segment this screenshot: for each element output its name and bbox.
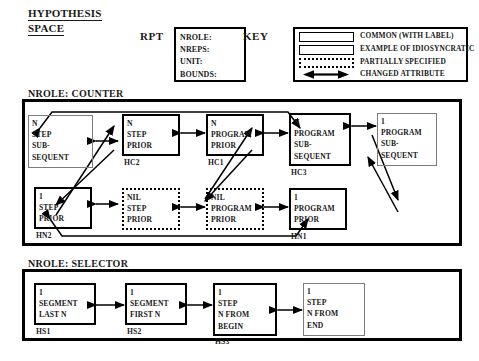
node-label-hc1: HC1 [208,158,224,167]
key-entry-common: COMMON (WITH LABEL) [295,31,466,44]
node-hs1: 1 SEGMENT LAST N [34,283,96,325]
node-n-step-subsequent: N STEP SUB- SEQUENT [28,115,93,168]
rpt-box: NROLE: NREPS: UNIT: BOUNDS: [174,27,246,82]
node-label-hs2: HS2 [127,327,142,336]
node-hc1: N PROGRAM PRIOR [206,114,264,156]
page-title-line-1: HYPOTHESIS [28,6,102,21]
key-legend-box: COMMON (WITH LABEL) EXAMPLE OF IDIOSYNCR… [293,27,468,82]
node-hn2: 1 STEP PRIOR [34,187,92,229]
node-1-program-subsequent: 1 PROGRAM SUB- SEQUENT [377,113,437,166]
key-entry-idiosyncratic-label: EXAMPLE OF IDIOSYNCRATIC [360,44,474,53]
node-label-hc3: HC3 [291,168,307,177]
node-hc3: N PROGRAM SUB- SEQUENT [289,113,351,166]
node-hs3: 1 STEP N FROM BEGIN [213,283,277,336]
rpt-field-nreps: NREPS: [180,44,244,56]
key-entry-partial-label: PARTIALLY SPECIFIED [360,57,446,66]
node-hc2: N STEP PRIOR [122,114,180,156]
node-nil-program-prior: NIL PROGRAM PRIOR [206,188,264,230]
node-label-hs3: HS3 [215,337,230,346]
rpt-field-nrole: NROLE: [180,32,244,44]
node-1-step-n-from-end: 1 STEP N FROM END [303,283,365,336]
node-nil-step-prior: NIL STEP PRIOR [122,188,180,230]
key-entry-common-label: COMMON (WITH LABEL) [360,31,454,40]
node-label-hs1: HS1 [36,327,51,336]
key-entry-idiosyncratic: EXAMPLE OF IDIOSYNCRATIC [295,44,466,57]
node-label-hn1: HN1 [291,232,307,241]
solid-rectangle-icon [299,32,354,42]
node-label-hn2: HN2 [36,231,52,240]
rpt-field-unit: UNIT: [180,56,244,68]
key-entry-changed: CHANGED ATTRIBUTE [295,69,466,82]
node-hn1: 1 PROGRAM PRIOR [289,188,347,230]
rpt-field-bounds: BOUNDS: [180,69,244,81]
rpt-label: RPT [140,30,164,42]
dotted-rectangle-icon [299,58,354,68]
double-arrow-icon [299,69,354,80]
node-hs2: 1 SEGMENT FIRST N [125,283,187,325]
key-entry-changed-label: CHANGED ATTRIBUTE [360,69,445,78]
key-label: KEY [243,30,268,42]
node-label-hc2: HC2 [124,158,140,167]
page-title-line-2: SPACE [28,21,64,36]
thin-rectangle-icon [299,45,354,55]
